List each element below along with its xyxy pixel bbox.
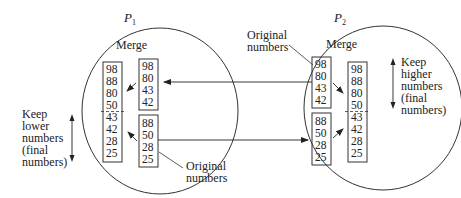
p2-merge-arrow-bottom bbox=[333, 129, 343, 138]
svg-text:88: 88 bbox=[142, 117, 154, 129]
p2-original-callout-line bbox=[289, 45, 313, 65]
p2-input-top-numbers: 98 80 43 42 bbox=[315, 58, 327, 106]
svg-text:25: 25 bbox=[142, 153, 154, 165]
svg-text:28: 28 bbox=[315, 139, 327, 151]
p2-merge-arrow-top bbox=[333, 83, 343, 93]
p2-input-bottom-numbers: 88 50 28 25 bbox=[315, 115, 327, 163]
p1-double-arrow-icon bbox=[70, 114, 75, 162]
p1-original-callout-line bbox=[159, 152, 183, 168]
svg-text:98: 98 bbox=[351, 63, 363, 75]
svg-text:numbers): numbers) bbox=[22, 155, 67, 169]
svg-text:98: 98 bbox=[142, 60, 154, 72]
svg-text:43: 43 bbox=[315, 82, 327, 94]
svg-text:50: 50 bbox=[106, 99, 118, 111]
p1-merge-label: Merge bbox=[116, 38, 147, 52]
p2-merge-label: Merge bbox=[326, 37, 357, 51]
svg-text:28: 28 bbox=[106, 135, 118, 147]
svg-text:98: 98 bbox=[106, 63, 118, 75]
p1-input-top-numbers: 98 80 43 42 bbox=[142, 60, 154, 108]
p2-original-numbers-label: Original numbers bbox=[247, 28, 289, 54]
svg-text:98: 98 bbox=[315, 58, 327, 70]
p2-double-arrow-icon bbox=[391, 58, 396, 109]
processor-p2: P2 Merge 98 80 43 42 88 50 28 25 98 88 8… bbox=[247, 10, 461, 190]
svg-text:88: 88 bbox=[106, 75, 118, 87]
svg-text:numbers: numbers bbox=[186, 171, 228, 185]
svg-text:88: 88 bbox=[315, 115, 327, 127]
svg-text:80: 80 bbox=[106, 87, 118, 99]
svg-text:80: 80 bbox=[351, 87, 363, 99]
svg-text:numbers: numbers bbox=[247, 40, 289, 54]
svg-text:42: 42 bbox=[315, 94, 327, 106]
svg-text:50: 50 bbox=[315, 127, 327, 139]
svg-text:43: 43 bbox=[142, 84, 154, 96]
p2-keep-higher-note: Keep higher numbers (final numbers) bbox=[401, 55, 446, 117]
p1-merge-arrow-bottom bbox=[128, 132, 137, 141]
p1-input-bottom-numbers: 88 50 28 25 bbox=[142, 117, 154, 165]
svg-text:43: 43 bbox=[351, 111, 363, 123]
svg-text:42: 42 bbox=[142, 96, 154, 108]
svg-text:25: 25 bbox=[106, 147, 118, 159]
svg-text:50: 50 bbox=[351, 99, 363, 111]
p2-merged-numbers: 98 88 80 50 43 42 28 25 bbox=[351, 63, 363, 159]
svg-text:80: 80 bbox=[142, 72, 154, 84]
p1-label: P1 bbox=[123, 10, 136, 27]
p1-merge-arrow-top bbox=[127, 83, 136, 91]
svg-text:42: 42 bbox=[351, 123, 363, 135]
svg-text:28: 28 bbox=[351, 135, 363, 147]
svg-text:50: 50 bbox=[142, 129, 154, 141]
compare-exchange-diagram: P1 Merge 98 88 80 50 43 42 28 25 98 80 4… bbox=[0, 0, 461, 198]
svg-text:numbers): numbers) bbox=[401, 103, 446, 117]
svg-text:88: 88 bbox=[351, 75, 363, 87]
svg-text:28: 28 bbox=[142, 141, 154, 153]
svg-text:80: 80 bbox=[315, 70, 327, 82]
p1-merged-numbers: 98 88 80 50 43 42 28 25 bbox=[106, 63, 118, 159]
p2-label: P2 bbox=[333, 10, 346, 27]
p1-original-numbers-label: Original numbers bbox=[186, 159, 228, 185]
p1-keep-lower-note: Keep lower numbers (final numbers) bbox=[22, 107, 67, 169]
svg-text:25: 25 bbox=[315, 151, 327, 163]
svg-text:25: 25 bbox=[351, 147, 363, 159]
svg-text:42: 42 bbox=[106, 123, 118, 135]
svg-text:43: 43 bbox=[106, 111, 118, 123]
processor-p1: P1 Merge 98 88 80 50 43 42 28 25 98 80 4… bbox=[22, 10, 238, 194]
